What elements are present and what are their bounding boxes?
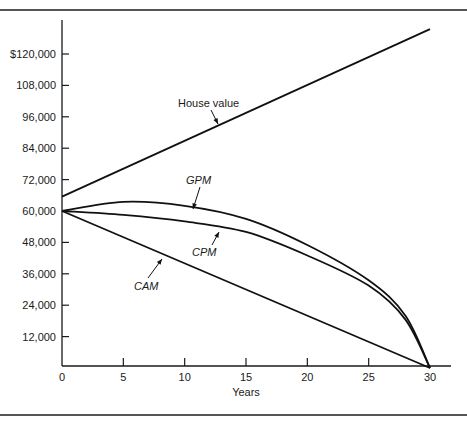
x-tick-label: 5 <box>120 371 126 383</box>
y-tick-label: 36,000 <box>22 268 56 280</box>
x-tick-label: 30 <box>424 371 436 383</box>
x-tick-label: 25 <box>363 371 375 383</box>
axes <box>62 20 451 366</box>
y-tick-label: 12,000 <box>22 331 56 343</box>
y-tick-label: 72,000 <box>22 174 56 186</box>
y-tick-label: 48,000 <box>22 236 56 248</box>
y-tick-label: $120,000 <box>10 48 56 60</box>
y-tick-label: 24,000 <box>22 299 56 311</box>
x-tick-label: 20 <box>301 371 313 383</box>
label-house-value: House value <box>178 97 239 109</box>
series-line-gpm <box>62 202 430 368</box>
x-tick-label: 10 <box>179 371 191 383</box>
y-tick-label: 108,000 <box>16 79 56 91</box>
series-labels: House valueGPMCPMCAM <box>134 97 239 292</box>
arrowhead-icon <box>157 259 162 265</box>
label-cam: CAM <box>134 280 159 292</box>
label-gpm: GPM <box>186 174 212 186</box>
x-tick-label: 15 <box>240 371 252 383</box>
mortgage-balance-chart: 12,00024,00036,00048,00060,00072,00084,0… <box>0 0 467 421</box>
series-line-house-value <box>62 29 430 196</box>
y-tick-label: 96,000 <box>22 111 56 123</box>
y-tick-label: 84,000 <box>22 142 56 154</box>
x-axis-title: Years <box>232 386 260 398</box>
data-series <box>62 29 430 368</box>
label-cpm: CPM <box>192 246 217 258</box>
y-tick-label: 60,000 <box>22 205 56 217</box>
x-tick-label: 0 <box>59 371 65 383</box>
